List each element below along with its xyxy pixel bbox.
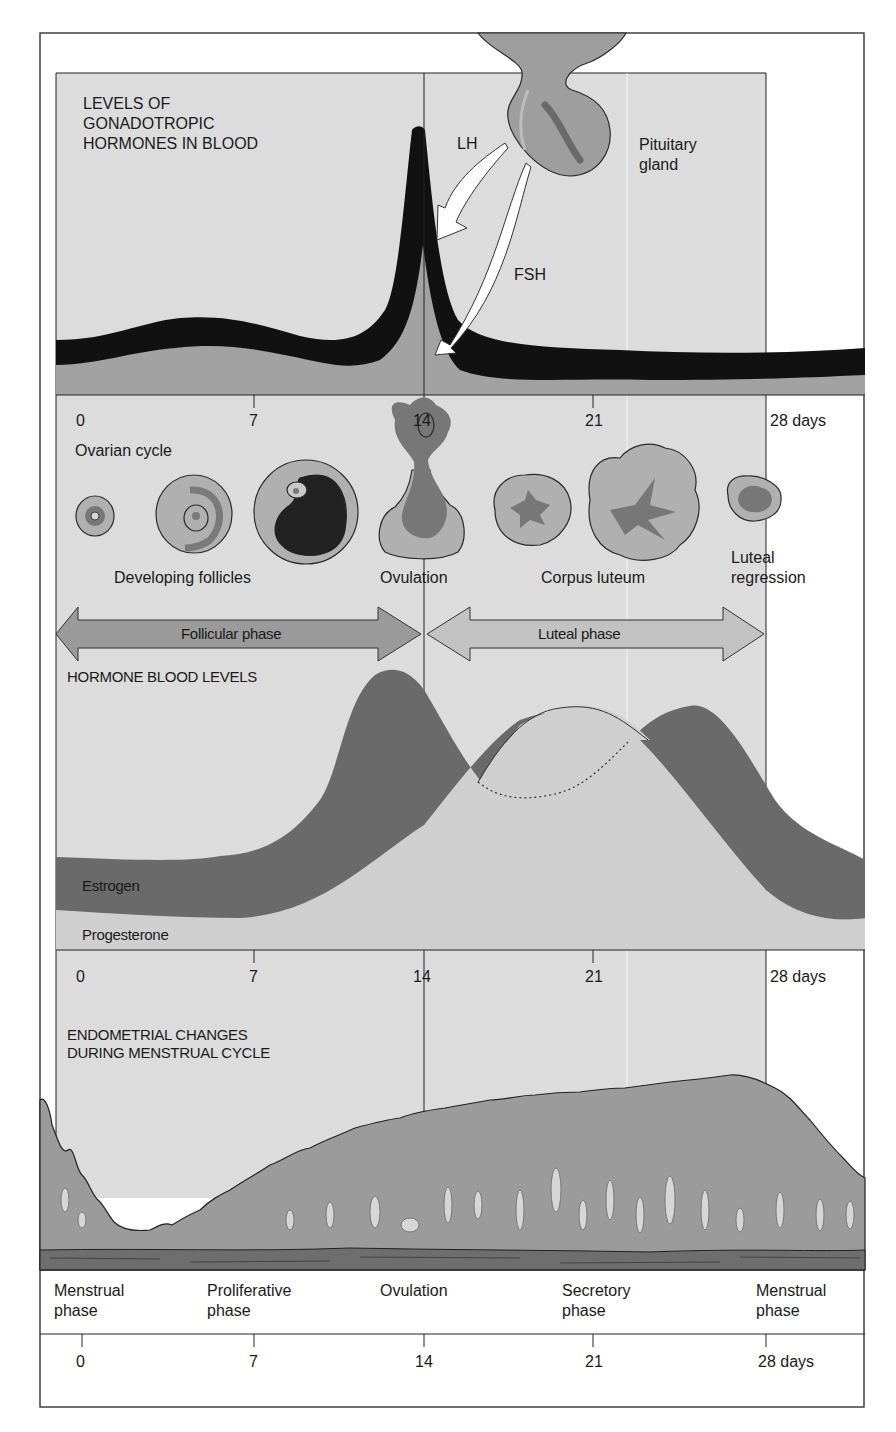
endometrial-heading: ENDOMETRIAL CHANGES DURING MENSTRUAL CYC… (67, 1026, 270, 1062)
tick-14-middle: 14 (413, 967, 431, 987)
corpus-luteum-large-icon (589, 444, 699, 560)
tick-7-middle: 7 (249, 967, 258, 987)
primordial-follicle-icon (76, 496, 114, 536)
tick-0-middle: 0 (76, 967, 85, 987)
hormone-levels-heading: HORMONE BLOOD LEVELS (67, 668, 257, 686)
menstrual-phase-end-label: Menstrual phase (756, 1281, 826, 1321)
proliferative-phase-label: Proliferative phase (207, 1281, 291, 1321)
menstrual-phase-start-label: Menstrual phase (54, 1281, 124, 1321)
ovarian-cycle-heading: Ovarian cycle (75, 441, 172, 461)
progesterone-label: Progesterone (82, 926, 168, 944)
estrogen-label: Estrogen (82, 877, 140, 895)
tick-28-top: 28 days (770, 411, 826, 431)
tick-21-middle: 21 (585, 967, 603, 987)
tick-28-middle: 28 days (770, 967, 826, 987)
tick-7-bottom: 7 (249, 1352, 258, 1372)
tick-14-top: 14 (413, 411, 431, 431)
developing-follicles-label: Developing follicles (114, 568, 251, 588)
corpus-luteum-small-icon (494, 474, 571, 545)
tick-14-bottom: 14 (415, 1352, 433, 1372)
menstrual-cycle-diagram (0, 0, 896, 1432)
luteal-regression-label: Luteal regression (731, 548, 806, 588)
tick-21-bottom: 21 (585, 1352, 603, 1372)
tick-21-top: 21 (585, 411, 603, 431)
ovulation-stage-label: Ovulation (380, 568, 448, 588)
fsh-label: FSH (514, 265, 546, 285)
antral-follicle-icon (254, 460, 358, 564)
tick-0-bottom: 0 (76, 1352, 85, 1372)
secretory-phase-label: Secretory phase (562, 1281, 630, 1321)
tick-7-top: 7 (249, 411, 258, 431)
luteal-phase-label: Luteal phase (538, 625, 620, 643)
lh-label: LH (457, 134, 477, 154)
corpus-luteum-label: Corpus luteum (541, 568, 645, 588)
pituitary-label: Pituitary gland (639, 135, 697, 175)
ovulation-endometrial-label: Ovulation (380, 1281, 448, 1301)
gonadotropic-heading: LEVELS OF GONADOTROPIC HORMONES IN BLOOD (83, 94, 258, 154)
tick-28-bottom: 28 days (758, 1352, 814, 1372)
primary-follicle-icon (156, 475, 232, 553)
follicular-phase-label: Follicular phase (181, 625, 281, 643)
tick-0-top: 0 (76, 411, 85, 431)
